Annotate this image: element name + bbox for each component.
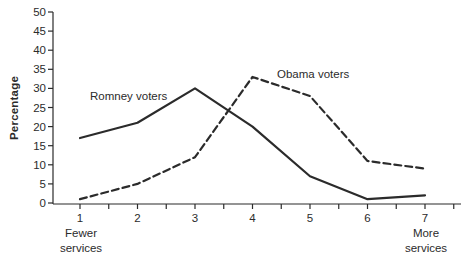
x-axis-tick-label: 3: [192, 212, 198, 224]
y-axis-tick-label: 10: [33, 159, 46, 171]
y-axis-title: Percentage: [8, 76, 20, 140]
series-label-romney-voters: Romney voters: [90, 90, 167, 102]
y-axis-tick-label: 45: [33, 25, 46, 37]
y-axis-tick-label: 25: [33, 102, 46, 114]
chart-figure: 051015202530354045501234567 Percentage R…: [0, 0, 464, 265]
y-axis-tick-label: 40: [33, 44, 46, 56]
x-axis-tick-label: 7: [422, 212, 428, 224]
y-axis-tick-label: 20: [33, 121, 46, 133]
x-axis-tick-label: 6: [364, 212, 370, 224]
x-axis-note-more-services: More services: [405, 226, 447, 256]
y-axis-tick-label: 30: [33, 82, 46, 94]
x-axis-note-line: services: [405, 241, 447, 256]
y-axis-tick-label: 35: [33, 63, 46, 75]
x-axis-tick-label: 2: [134, 212, 140, 224]
y-axis-tick-label: 50: [33, 6, 46, 18]
x-axis-note-line: services: [60, 241, 102, 256]
y-axis-tick-label: 0: [40, 197, 46, 209]
series-line-romney: [80, 88, 425, 199]
series-label-obama-voters: Obama voters: [277, 68, 349, 80]
x-axis-tick-label: 5: [307, 212, 313, 224]
x-axis-note-line: More: [405, 226, 447, 241]
x-axis-tick-label: 4: [249, 212, 256, 224]
y-axis-tick-label: 15: [33, 140, 46, 152]
y-axis-tick-label: 5: [40, 178, 46, 190]
x-axis-note-line: Fewer: [60, 226, 102, 241]
x-axis-tick-label: 1: [77, 212, 83, 224]
x-axis-note-fewer-services: Fewer services: [60, 226, 102, 256]
